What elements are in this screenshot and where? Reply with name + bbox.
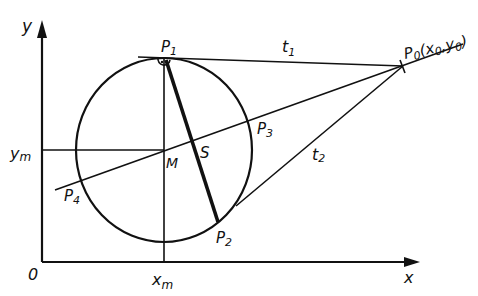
x-axis-label: x	[403, 268, 414, 287]
center-m-label: M	[166, 155, 178, 171]
p1-label: P1	[161, 38, 177, 58]
p0-label: P0(x0,y0)	[402, 32, 469, 65]
y-axis-arrow-icon	[37, 20, 47, 38]
p2-label: P2	[216, 229, 232, 249]
p3-label: P3	[257, 120, 273, 140]
p4-label: P4	[64, 187, 80, 207]
point-s-label: S	[200, 144, 210, 162]
origin-label: 0	[28, 265, 38, 284]
coordinate-axes	[37, 20, 420, 267]
tangent-t1	[138, 57, 403, 66]
x-axis-arrow-icon	[404, 257, 420, 267]
tangent-secant-diagram: y x 0 ym xm M S P1 P2 P3 P4 P0(x0,y0) t1…	[0, 0, 478, 296]
chord-p1-p2	[166, 60, 218, 222]
t2-label: t2	[312, 145, 325, 165]
y-axis-label: y	[21, 16, 33, 36]
right-angle-dot-icon	[161, 61, 163, 63]
t1-label: t1	[282, 37, 295, 59]
xm-label: xm	[151, 270, 173, 292]
ym-label: ym	[9, 144, 31, 164]
